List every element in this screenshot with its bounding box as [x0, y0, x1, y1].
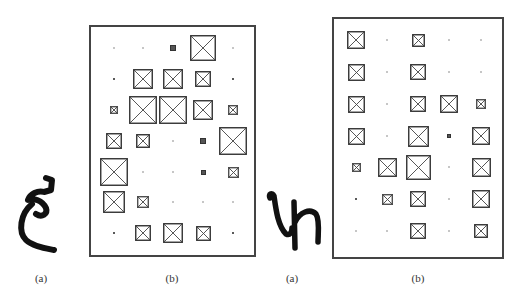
grid-dot: [448, 71, 450, 73]
grid-panel-left: [89, 25, 256, 257]
grid-dot: [232, 47, 234, 49]
grid-crossed-square: [406, 155, 431, 180]
grid-crossed-square: [440, 95, 458, 113]
grid-crossed-square: [228, 105, 238, 115]
grid-crossed-square: [410, 223, 426, 239]
grid-crossed-square: [474, 224, 488, 238]
grid-crossed-square: [472, 158, 491, 177]
grid-crossed-square: [410, 64, 426, 80]
grid-crossed-square: [100, 158, 128, 186]
handwritten-glyph-2: [262, 188, 328, 254]
grid-crossed-square: [352, 163, 361, 172]
grid-crossed-square: [135, 225, 151, 241]
grid-crossed-square: [348, 64, 365, 81]
grid-crossed-square: [382, 194, 393, 205]
grid-dot: [448, 166, 450, 168]
caption-right-b: (b): [412, 272, 425, 284]
grid-dot: [142, 47, 144, 49]
grid-panel-right: [332, 17, 504, 259]
grid-crossed-square: [472, 190, 490, 208]
grid-crossed-square: [412, 34, 425, 47]
grid-crossed-square: [195, 71, 211, 87]
grid-crossed-square: [163, 69, 183, 89]
grid-dot: [386, 230, 388, 232]
grid-dot: [172, 171, 174, 173]
grid-crossed-square: [472, 127, 490, 145]
grid-dot: [480, 71, 482, 73]
grid-crossed-square: [137, 196, 149, 208]
grid-crossed-square: [200, 138, 206, 144]
grid-crossed-square: [219, 127, 247, 155]
grid-crossed-square: [476, 99, 486, 109]
grid-crossed-square: [196, 226, 211, 241]
handwritten-glyph-1: [8, 170, 58, 260]
grid-dot: [172, 140, 174, 142]
grid-dot: [386, 135, 388, 137]
grid-dot: [386, 39, 388, 41]
grid-dot: [142, 171, 144, 173]
grid-crossed-square: [408, 126, 429, 147]
grid-dot: [113, 47, 115, 49]
grid-crossed-square: [228, 167, 239, 178]
grid-dot: [232, 232, 235, 235]
grid-crossed-square: [190, 35, 216, 61]
grid-dot: [202, 201, 204, 203]
grid-crossed-square: [159, 96, 187, 124]
grid-dot: [448, 39, 450, 41]
grid-dot: [232, 78, 235, 81]
grid-crossed-square: [447, 134, 451, 138]
grid-crossed-square: [163, 223, 183, 243]
grid-crossed-square: [133, 69, 153, 89]
grid-dot: [113, 78, 116, 81]
grid-dot: [232, 201, 234, 203]
grid-crossed-square: [106, 133, 122, 149]
grid-crossed-square: [193, 100, 213, 120]
caption-right-a: (a): [286, 272, 298, 284]
grid-dot: [386, 103, 388, 105]
grid-crossed-square: [129, 96, 157, 124]
grid-crossed-square: [410, 96, 426, 112]
grid-crossed-square: [378, 158, 397, 177]
grid-crossed-square: [110, 106, 118, 114]
grid-dot: [480, 39, 482, 41]
grid-crossed-square: [410, 191, 426, 207]
grid-dot: [448, 230, 450, 232]
grid-crossed-square: [347, 31, 365, 49]
grid-crossed-square: [201, 170, 206, 175]
grid-dot: [355, 198, 358, 201]
caption-left-a: (a): [35, 272, 47, 284]
grid-dot: [172, 201, 174, 203]
grid-crossed-square: [348, 128, 365, 145]
grid-dot: [448, 198, 450, 200]
grid-crossed-square: [170, 45, 176, 51]
grid-crossed-square: [103, 191, 125, 213]
grid-dot: [386, 71, 388, 73]
caption-left-b: (b): [166, 272, 179, 284]
grid-crossed-square: [348, 96, 365, 113]
grid-dot: [113, 232, 116, 235]
grid-dot: [355, 230, 357, 232]
grid-crossed-square: [136, 134, 150, 148]
